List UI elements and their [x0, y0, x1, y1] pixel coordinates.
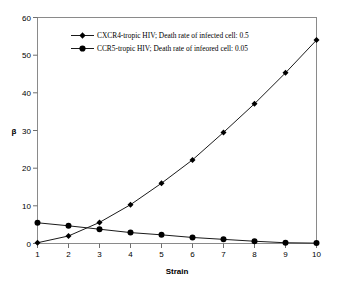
y-tick-label: 0 [27, 240, 32, 249]
data-point [128, 202, 134, 208]
data-point [252, 238, 258, 244]
x-tick-label: 7 [221, 250, 226, 259]
series-line-1 [38, 223, 317, 243]
series-0 [35, 37, 320, 246]
x-tick-label: 10 [312, 250, 321, 259]
data-point [66, 233, 72, 239]
y-axis-ticks [33, 18, 38, 244]
line-chart: 0 10 20 30 40 50 60 β 1 2 3 [0, 0, 346, 281]
data-point [35, 220, 41, 226]
x-tick-label: 5 [159, 250, 164, 259]
y-tick-label: 20 [22, 164, 31, 173]
y-tick-label: 10 [22, 202, 31, 211]
data-point [97, 226, 103, 232]
series-layer [35, 37, 320, 246]
y-tick-label: 50 [22, 51, 31, 60]
chart-legend: CXCR4-tropic HIV; Death rate of infected… [71, 31, 249, 53]
data-point [314, 240, 320, 246]
legend-label-cxcr4: CXCR4-tropic HIV; Death rate of infected… [97, 31, 249, 40]
legend-marker-diamond-icon [79, 32, 85, 38]
legend-label-ccr5: CCR5-tropic HIV; Death rate of infeored … [97, 44, 248, 53]
y-axis-title: β [12, 127, 17, 136]
data-point [190, 234, 196, 240]
y-tick-label: 60 [22, 14, 31, 23]
data-point [221, 236, 227, 242]
data-point [35, 240, 41, 246]
data-point [97, 219, 103, 225]
y-tick-label: 40 [22, 89, 31, 98]
x-tick-label: 1 [35, 250, 40, 259]
series-line-0 [38, 40, 317, 243]
x-tick-label: 9 [283, 250, 288, 259]
x-tick-label: 6 [190, 250, 195, 259]
x-axis-ticks [38, 244, 317, 249]
x-tick-label: 4 [128, 250, 133, 259]
series-1 [35, 220, 320, 246]
data-point [128, 230, 134, 236]
data-point [66, 223, 72, 229]
legend-marker-circle-icon [79, 45, 85, 51]
y-tick-label: 30 [22, 127, 31, 136]
data-point [159, 232, 165, 238]
legend-entry-ccr5: CCR5-tropic HIV; Death rate of infeored … [71, 44, 248, 53]
data-point [283, 240, 289, 246]
legend-entry-cxcr4: CXCR4-tropic HIV; Death rate of infected… [71, 31, 249, 40]
x-tick-label: 2 [66, 250, 71, 259]
x-tick-label: 3 [97, 250, 102, 259]
x-axis-title: Strain [166, 267, 189, 276]
chart-container: 0 10 20 30 40 50 60 β 1 2 3 [0, 0, 346, 281]
x-axis-tick-labels: 1 2 3 4 5 6 7 8 9 10 [35, 250, 321, 259]
y-axis-tick-labels: 0 10 20 30 40 50 60 [22, 14, 31, 249]
x-tick-label: 8 [252, 250, 257, 259]
